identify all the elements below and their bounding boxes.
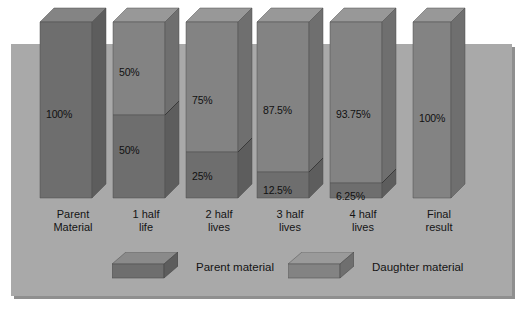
bar-2-daughter-value: 50% [119, 66, 139, 78]
bar-5-daughter-value: 93.75% [336, 108, 370, 120]
figure-canvas: 100%Parent Material50%50%1 half life75%2… [0, 0, 524, 310]
legend-item-parent-material: Parent material [112, 252, 274, 282]
bar-3-daughter-value: 75% [192, 94, 212, 106]
legend-label-daughter-material: Daughter material [372, 261, 463, 273]
legend-item-daughter-material: Daughter material [288, 252, 463, 282]
bar-1-parent-value: 100% [46, 108, 72, 120]
bar-front-face [413, 22, 451, 198]
category-label-5: 4 half lives [316, 208, 410, 234]
bar-front-face-parent [113, 115, 165, 198]
bar-side-face-daughter [238, 8, 252, 152]
bar-front-face-daughter [257, 22, 309, 172]
bar-6 [413, 8, 467, 202]
bar-side-face [451, 8, 465, 198]
bar-4-daughter-value: 87.5% [263, 104, 292, 116]
bar-front-face-daughter [330, 22, 382, 183]
bar-3-parent-value: 25% [192, 170, 212, 182]
legend-label-parent-material: Parent material [196, 261, 274, 273]
bar-side-face-daughter [165, 8, 179, 115]
bar-2-parent-value: 50% [119, 144, 139, 156]
bar-5-parent-value: 6.25% [336, 190, 365, 202]
bar-front-face-daughter [186, 22, 238, 152]
bar-1 [40, 8, 108, 202]
daughter-material-swatch-icon [288, 252, 354, 282]
bar-side-face-daughter [309, 8, 323, 172]
bar-2 [113, 8, 181, 202]
bar-side-face-daughter [382, 8, 396, 183]
parent-material-swatch-icon [112, 252, 178, 282]
bar-5 [330, 8, 398, 202]
bar-6-daughter-value: 100% [419, 112, 445, 124]
bar-side-face [92, 8, 106, 198]
category-label-6: Final result [399, 208, 479, 234]
bar-side-face-parent [165, 101, 179, 198]
bar-4-parent-value: 12.5% [263, 184, 292, 196]
